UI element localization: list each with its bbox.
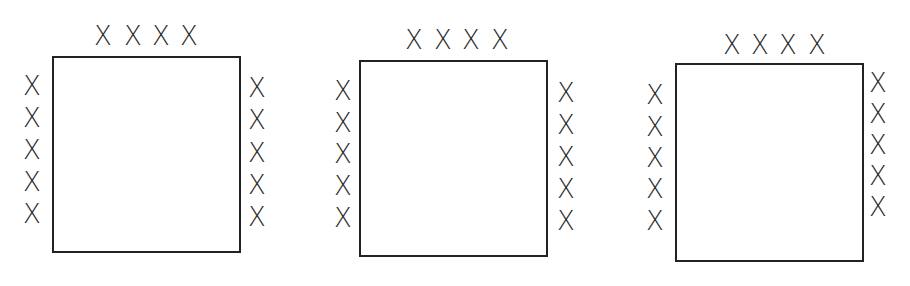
left-x-mark: X [646,145,664,171]
right-x-mark: X [869,194,887,220]
right-x-mark: X [248,140,266,166]
right-x-mark: X [248,172,266,198]
right-x-mark: X [557,112,575,138]
right-x-mark: X [869,132,887,158]
left-x-mark: X [646,82,664,108]
right-x-mark: X [557,80,575,106]
left-x-mark: X [334,205,352,231]
top-x-mark: X [405,27,423,53]
left-x-mark: X [23,73,41,99]
left-x-mark: X [646,176,664,202]
left-x-mark: X [646,208,664,234]
left-x-mark: X [334,110,352,136]
left-x-mark: X [23,201,41,227]
top-x-mark: X [808,32,826,58]
top-x-mark: X [491,27,509,53]
right-x-mark: X [869,101,887,127]
top-x-mark: X [124,23,142,49]
right-x-mark: X [248,107,266,133]
left-x-mark: X [334,141,352,167]
right-x-mark: X [557,176,575,202]
top-x-mark: X [779,32,797,58]
square [52,56,241,253]
right-x-mark: X [557,208,575,234]
left-x-mark: X [646,114,664,140]
left-x-mark: X [334,78,352,104]
left-x-mark: X [23,137,41,163]
right-x-mark: X [248,204,266,230]
diagram-canvas: XXXXXXXXXXXXXXXXXXXXXXXXXXXXXXXXXXXXXXXX… [0,0,910,286]
top-x-mark: X [751,32,769,58]
left-x-mark: X [23,169,41,195]
left-x-mark: X [23,105,41,131]
right-x-mark: X [869,163,887,189]
top-x-mark: X [152,23,170,49]
top-x-mark: X [94,23,112,49]
top-x-mark: X [180,23,198,49]
right-x-mark: X [557,144,575,170]
top-x-mark: X [462,27,480,53]
square [675,63,864,262]
right-x-mark: X [248,75,266,101]
left-x-mark: X [334,173,352,199]
right-x-mark: X [869,70,887,96]
square [359,60,548,257]
top-x-mark: X [723,32,741,58]
top-x-mark: X [434,27,452,53]
